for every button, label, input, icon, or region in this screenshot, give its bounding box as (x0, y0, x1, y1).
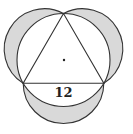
center-dot (63, 59, 65, 61)
side-length-label: 12 (54, 85, 72, 100)
geometry-diagram: 12 (0, 0, 133, 134)
